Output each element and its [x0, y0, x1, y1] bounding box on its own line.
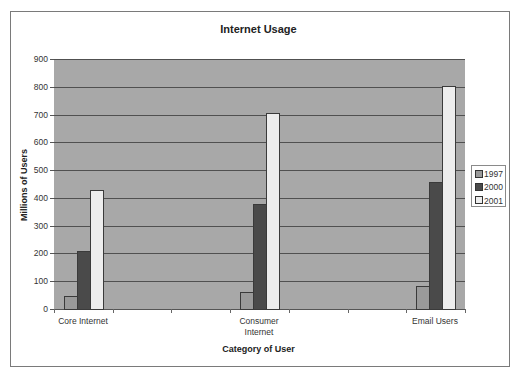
chart-title: Internet Usage — [0, 23, 517, 35]
y-tick — [50, 281, 54, 282]
gridline — [54, 142, 465, 143]
legend: 199720002001 — [471, 165, 506, 207]
bar-1997-email-users — [416, 286, 430, 310]
legend-item-1997: 1997 — [475, 169, 503, 179]
y-tick — [50, 142, 54, 143]
gridline — [54, 198, 465, 199]
y-tick-label: 100 — [8, 276, 48, 286]
bar-2001-consumer-internet — [266, 113, 280, 310]
y-tick-label: 700 — [8, 110, 48, 120]
x-tick — [113, 309, 114, 313]
y-tick — [50, 253, 54, 254]
x-axis-title: Category of User — [0, 344, 517, 354]
y-tick — [50, 309, 54, 310]
legend-label: 2000 — [484, 182, 503, 192]
y-tick-label: 200 — [8, 248, 48, 258]
legend-swatch-icon — [475, 196, 483, 204]
gridline — [54, 59, 465, 60]
x-category-label: Core Internet — [43, 316, 123, 327]
bar-2000-consumer-internet — [253, 204, 267, 310]
bar-2001-core-internet — [90, 190, 104, 310]
bar-2001-email-users — [442, 86, 456, 310]
bar-2000-core-internet — [77, 251, 91, 310]
legend-swatch-icon — [475, 183, 483, 191]
x-tick — [465, 309, 466, 313]
y-tick-label: 800 — [8, 82, 48, 92]
bar-2000-email-users — [429, 182, 443, 310]
x-tick — [171, 309, 172, 313]
gridline — [54, 87, 465, 88]
x-tick — [54, 309, 55, 313]
gridline — [54, 170, 465, 171]
legend-item-2001: 2001 — [475, 196, 503, 206]
bar-1997-consumer-internet — [240, 292, 254, 310]
y-tick-label: 0 — [8, 304, 48, 314]
legend-label: 1997 — [484, 169, 503, 179]
y-tick — [50, 226, 54, 227]
y-axis-title: Millions of Users — [19, 149, 29, 221]
x-category-label: Email Users — [395, 316, 475, 327]
y-tick-label: 600 — [8, 137, 48, 147]
legend-label: 2001 — [484, 196, 503, 206]
x-tick — [289, 309, 290, 313]
gridline — [54, 115, 465, 116]
x-tick — [230, 309, 231, 313]
y-tick — [50, 170, 54, 171]
y-tick-label: 900 — [8, 54, 48, 64]
legend-item-2000: 2000 — [475, 182, 503, 192]
y-tick — [50, 59, 54, 60]
legend-swatch-icon — [475, 170, 483, 178]
y-tick — [50, 115, 54, 116]
bar-1997-core-internet — [64, 296, 78, 310]
x-category-label: ConsumerInternet — [219, 316, 299, 338]
y-tick — [50, 198, 54, 199]
y-tick — [50, 87, 54, 88]
x-tick — [406, 309, 407, 313]
x-tick — [348, 309, 349, 313]
y-tick-label: 300 — [8, 221, 48, 231]
